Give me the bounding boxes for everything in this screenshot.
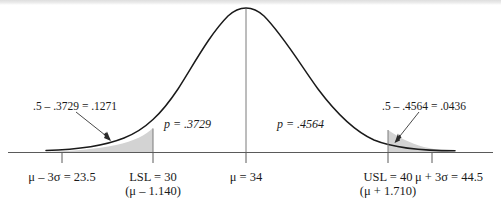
axis-label-upper-3sigma: μ + 3σ = 44.5 [415, 170, 483, 184]
left-tail-annotation: .5 – .3729 = .1271 [33, 100, 117, 113]
axis-label-usl-main: USL = 40 [364, 170, 413, 184]
right-tail-annotation: .5 – .4564 = .0436 [382, 100, 466, 113]
probability-label-mean-to-usl: p = .4564 [277, 118, 324, 132]
axis-label-usl: USL = 40 (μ + 1.710) [360, 170, 416, 199]
axis-label-mean: μ = 34 [230, 170, 263, 184]
probability-label-lsl-to-mean: p = .3729 [164, 118, 211, 132]
axis-label-lower-3sigma: μ – 3σ = 23.5 [28, 170, 95, 184]
axis-label-usl-sub: (μ + 1.710) [360, 184, 416, 198]
axis-label-lsl-sub: (μ – 1.140) [125, 184, 181, 198]
right-annotation-leader-arrow [395, 112, 420, 143]
axis-label-lsl: LSL = 30 (μ – 1.140) [125, 170, 181, 199]
normal-distribution-figure: .5 – .3729 = .1271 .5 – .4564 = .0436 p … [0, 0, 501, 206]
normal-curve [46, 8, 455, 151]
axis-label-lsl-main: LSL = 30 [129, 170, 177, 184]
left-annotation-leader-arrow [76, 112, 111, 141]
